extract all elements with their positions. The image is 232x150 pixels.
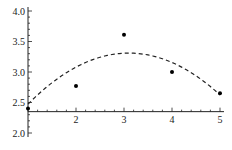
data-point <box>218 91 222 95</box>
y-tick-label: 2.5 <box>13 97 26 108</box>
data-points <box>26 33 222 111</box>
y-tick-label: 2.0 <box>13 128 26 139</box>
y-tick-label: 4.0 <box>13 6 26 17</box>
x-tick-label: 2 <box>74 114 79 125</box>
x-tick-label: 4 <box>170 114 175 125</box>
data-point <box>170 70 174 74</box>
y-tick-label: 3.0 <box>13 67 26 78</box>
x-tick-label: 5 <box>218 114 223 125</box>
chart: 2.02.53.03.54.0 2345 <box>0 0 232 150</box>
y-tick-label: 3.5 <box>13 36 26 47</box>
fit-curve <box>28 53 220 104</box>
y-axis-ticks: 2.02.53.03.54.0 <box>13 6 33 139</box>
data-point <box>26 107 30 111</box>
x-axis-ticks: 2345 <box>28 108 223 125</box>
x-tick-label: 3 <box>122 114 127 125</box>
data-point <box>122 33 126 37</box>
data-point <box>74 84 78 88</box>
